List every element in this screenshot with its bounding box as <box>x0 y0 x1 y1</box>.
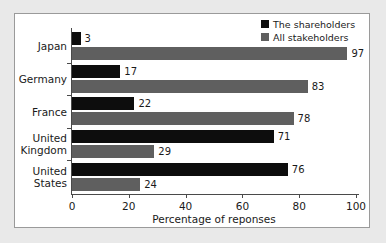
y-axis-category-labels: JapanGermanyFranceUnitedKingdomUnitedSta… <box>15 30 67 193</box>
x-axis-tick-label: 100 <box>341 200 371 212</box>
bar-shareholders[interactable] <box>72 163 288 176</box>
bar-group: 397 <box>72 30 356 63</box>
bar-group: 2278 <box>72 95 356 128</box>
x-axis-tick-mark <box>356 194 357 198</box>
legend-swatch-icon-shareholders <box>261 20 269 28</box>
x-axis-line <box>71 194 359 195</box>
bar-value-label: 83 <box>312 80 325 93</box>
category-label-line: States <box>13 177 67 189</box>
bar-value-label: 71 <box>278 130 291 143</box>
bar-shareholders[interactable] <box>72 32 81 45</box>
bar-value-label: 76 <box>292 163 305 176</box>
y-axis-tick-mark <box>67 95 71 96</box>
category-label-line: Kingdom <box>13 144 67 156</box>
x-axis-tick-mark <box>129 194 130 198</box>
category-label-line: Japan <box>13 40 67 52</box>
bar-shareholders[interactable] <box>72 97 134 110</box>
x-axis-tick-label: 40 <box>171 200 201 212</box>
bar-stakeholders[interactable] <box>72 80 308 93</box>
x-axis-tick-mark <box>186 194 187 198</box>
bar-group: 1783 <box>72 63 356 96</box>
category-label-united-states: UnitedStates <box>13 165 67 189</box>
category-label-line: United <box>13 165 67 177</box>
bar-stakeholders[interactable] <box>72 145 154 158</box>
y-axis-tick-mark <box>67 63 71 64</box>
category-label-france: France <box>13 106 67 118</box>
x-axis-tick-label: 60 <box>227 200 257 212</box>
category-label-line: Germany <box>13 73 67 85</box>
category-label-united-kingdom: UnitedKingdom <box>13 132 67 156</box>
x-axis-label: Percentage of reponses <box>72 213 356 225</box>
legend-item-the-shareholders: The shareholders <box>261 18 355 30</box>
bar-shareholders[interactable] <box>72 130 274 143</box>
x-axis-tick-mark <box>299 194 300 198</box>
bar-stakeholders[interactable] <box>72 178 140 191</box>
category-label-germany: Germany <box>13 73 67 85</box>
bar-value-label: 17 <box>124 65 137 78</box>
category-label-line: United <box>13 132 67 144</box>
x-axis-tick-mark <box>242 194 243 198</box>
bar-value-label: 29 <box>158 145 171 158</box>
bar-stakeholders[interactable] <box>72 47 347 60</box>
x-axis-tick-label: 0 <box>57 200 87 212</box>
bar-value-label: 97 <box>351 47 364 60</box>
chart-figure: The shareholders All stakeholders JapanG… <box>14 13 370 228</box>
category-label-japan: Japan <box>13 40 67 52</box>
x-axis-tick-label: 80 <box>284 200 314 212</box>
bar-shareholders[interactable] <box>72 65 120 78</box>
bar-value-label: 3 <box>85 32 91 45</box>
category-label-line: France <box>13 106 67 118</box>
plot-area: 3971783227871297624 <box>72 30 356 193</box>
bar-value-label: 78 <box>298 112 311 125</box>
y-axis-tick-mark <box>67 128 71 129</box>
x-axis-tick-mark <box>72 194 73 198</box>
y-axis-tick-mark <box>67 160 71 161</box>
bar-value-label: 22 <box>138 97 151 110</box>
bar-group: 7129 <box>72 128 356 161</box>
bar-group: 7624 <box>72 160 356 193</box>
bar-value-label: 24 <box>144 178 157 191</box>
bar-stakeholders[interactable] <box>72 112 294 125</box>
legend-label-shareholders: The shareholders <box>273 19 355 30</box>
x-axis-tick-label: 20 <box>114 200 144 212</box>
